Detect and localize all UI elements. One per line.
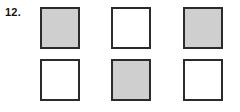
item-number-label: 12. xyxy=(5,6,21,19)
square-grid-row xyxy=(40,7,223,49)
square-cell xyxy=(40,59,80,101)
worksheet-item: 12. xyxy=(0,0,240,112)
square-cell xyxy=(183,7,223,49)
square-cell xyxy=(40,7,80,49)
square-cell xyxy=(111,59,151,101)
square-cell xyxy=(183,59,223,101)
square-grid-row xyxy=(40,59,223,101)
square-cell xyxy=(111,7,151,49)
square-grid-figure xyxy=(40,7,223,101)
